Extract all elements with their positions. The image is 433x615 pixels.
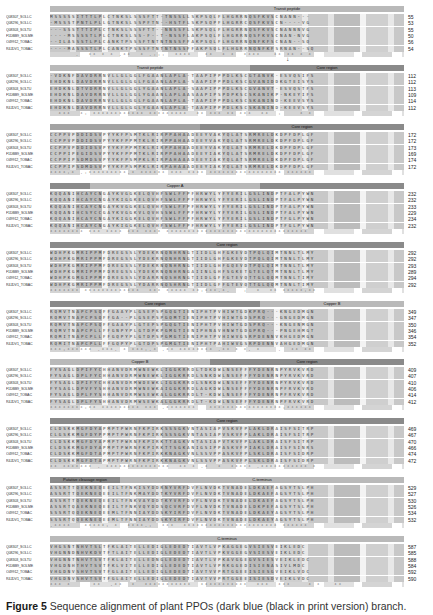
consensus-line: ******** *** **** *** **** *************… (50, 229, 404, 234)
sequence-name: Q08307_SOLLC (6, 544, 50, 550)
sequence-name: O49912_TOBAC (6, 334, 50, 340)
residue-end-position: 112 (408, 105, 416, 111)
sequence-name: F1DBB9_SOLME (6, 151, 50, 157)
caption-text: Sequence alignment of plant PPOs (dark b… (47, 600, 407, 612)
sequence-name: Q08307_SOLLC (6, 250, 50, 256)
residue-end-position: 173 (408, 145, 416, 151)
residue-end-position: 233 (408, 204, 416, 210)
sequence-name: R4JDV1_TOBAC (6, 341, 50, 347)
alignment-row: O49912_TOBACCLDSKKMGFDTAPMPTPWRNFKPIRKKN… (0, 451, 433, 457)
sequence-name: Q08296_SOLLC (6, 79, 50, 85)
alignment-row: O49912_TOBACCCPPIPSDMDSVPYYKFPSMPKLRIRPA… (0, 157, 433, 163)
sequence-name: R4JDV1_TOBAC (6, 46, 50, 52)
sequence-name: O49912_TOBAC (6, 98, 50, 104)
sequence-name: O49912_TOBAC (6, 451, 50, 457)
sequence-name: O49912_TOBAC (6, 392, 50, 398)
figure-caption: Figure 5 Sequence alignment of plant PPO… (6, 600, 406, 613)
sequence-residues: RQMVTNAPCPLLFFGNPYPLGTDPKPGMGTIENIPHNAVH… (50, 328, 404, 334)
sequence-residues: WDHPKGMRIPPMFDREGSSLYDEKRNQNHRNGAIINLGHF… (50, 269, 404, 275)
sequence-residues: ASSRTQAEKNEQEEILTFNKVQYDDSQCVRFDVFLNVDKT… (50, 504, 404, 510)
alignment-row: O49912_TOBACWDHPKGMGIPPMFDREGSSLYDARRNQS… (0, 275, 433, 281)
residue-end-position: 585 (408, 550, 416, 556)
sequence-residues: EHDKNLDAVDRRNVLLGLGGLFGAANLAPLA-TAAPIPPP… (50, 98, 404, 104)
region-annotation-bar: Core region (50, 242, 404, 248)
alignment-row: Q08303_SOLTUCCPPVPDDIDSVPYYKFPPMTKLRIRPP… (0, 145, 433, 151)
sequence-name: Q08296_SOLLC (6, 20, 50, 26)
alignment-row: F1DBB9_SOLMEASSRTQAEKNEQEEILTFNKVQYDDSQC… (0, 504, 433, 510)
sequence-residues: KQQANIHCSYCCGAYKVGGKVLQVHSSWLFFPFHRWYLYF… (50, 210, 404, 216)
alignment-row: O49912_TOBACKQQANIHCAYCNGAYKIGGKELQVHFSW… (0, 216, 433, 222)
residue-end-position: 294 (408, 275, 416, 281)
caption-label: Figure 5 (6, 600, 47, 612)
sequence-residues: ASSRTTQEKNEQEEILTFNKVAYDDTKYVRFDVFLNVDKT… (50, 498, 404, 504)
alignment-block: Core regionQ08307_SOLLCCLDSKKMGFDYAPMPTP… (0, 418, 433, 474)
residue-end-position: 414 (408, 392, 416, 398)
region-annotation-bar: Core region (50, 124, 404, 130)
sequence-name: O49912_TOBAC (6, 275, 50, 281)
residue-end-position: 587 (408, 544, 416, 550)
region-label (50, 6, 170, 12)
sequence-name: F1DBB9_SOLME (6, 445, 50, 451)
alignment-row: F1DBB9_SOLMEVHGDNHTHVTSVTFKLVITELLEDIGLE… (0, 563, 433, 569)
sequence-name: Q08307_SOLLC (6, 14, 50, 20)
region-annotation-bar: Copper BCore region (50, 359, 404, 365)
alignment-row: F1DBB9_SOLME----MSSSSTLPLCTNKSLSS-F--T-N… (0, 33, 433, 39)
alignment-row: Q08303_SOLTUCLDSKKMGFDYAPMPTPWRNFKPIRKTT… (0, 439, 433, 445)
alignment-row: R4JDV1_TOBACEHDKNLDAVDRRNVLLGLGGLYGAANLA… (0, 105, 433, 111)
sequence-residues: RQMVTNAPCPSQFFGA--PLGSEPSPGQMTIENIPHTPVH… (50, 315, 404, 321)
sequence-residues: FYSAGLDPIFYCHHANVDRMWNEWKLIGGKRRDLTDKDWL… (50, 367, 404, 373)
residue-end-position: 50 (408, 33, 414, 39)
sequence-name: Q08303_SOLTU (6, 263, 50, 269)
sequence-name: Q08307_SOLLC (6, 426, 50, 432)
alignment-row: R4JDV1_TOBACSSSRTQQEKNEQEEMLTFNNIAYDDSKY… (0, 517, 433, 523)
residue-end-position: 172 (408, 164, 416, 170)
residue-end-position: 289 (408, 269, 416, 275)
consensus-line: *** * ** .** * *********** *********** *… (50, 582, 404, 587)
region-label: Core region (250, 65, 404, 71)
sequence-residues: CCPPVPDDIDSVPYYKFPPMTKLRIRPPAHAADEEYVAKY… (50, 145, 404, 151)
residue-end-position: 474 (408, 451, 416, 457)
residue-end-position: 354 (408, 334, 416, 340)
sequence-residues: SSSRTQQEKNEQEEMLTFNNIAYDDSKYIRFDVFLNVDKT… (50, 517, 404, 523)
alignment-row: Q08303_SOLTUWDHPKGMRIPPMFDREGSSLYDEKRNQN… (0, 263, 433, 269)
sequence-name: Q08303_SOLTU (6, 557, 50, 563)
sequence-residues: ----MSSSSTLPLCTNKSLSS-F--T-NSSFLAKPSQLFL… (50, 33, 404, 39)
residue-end-position: 54 (408, 46, 414, 52)
sequence-name: Q08303_SOLTU (6, 204, 50, 210)
sequence-name: Q08296_SOLLC (6, 491, 50, 497)
sequence-name: O49912_TOBAC (6, 39, 50, 45)
alignment-row: F1DBB9_SOLMEKQQANIHCSYCCGAYKVGGKVLQVHSSW… (0, 210, 433, 216)
alignment-row: Q08296_SOLLCVHGNNDNHVKDVTFTLAITELLEDIGLE… (0, 550, 433, 556)
sequence-residues: RQMVTNAPCPSQFFGAAYPLGTEPSPGQGTIENIPHTPVH… (50, 322, 404, 328)
sequence-name: Q08296_SOLLC (6, 256, 50, 262)
alignment-row: Q08303_SOLTUVHGNNTNHVTSVTFKLAITELLEDNGLE… (0, 557, 433, 563)
residue-end-position: 56 (408, 39, 414, 45)
sequence-name: F1DBB9_SOLME (6, 33, 50, 39)
region-label (50, 359, 70, 365)
residue-end-position: 529 (408, 485, 416, 491)
residue-end-position: 55 (408, 27, 414, 33)
sequence-residues: KQQANIHCAYCNGAYKVGGKELQVHFSWLFFPFHRWYLYF… (50, 204, 404, 210)
sequence-residues: CCPPIPSDMDSVPYYKFPSMPKLRIRPAHAAADEEYIAKY… (50, 157, 404, 163)
sequence-residues: RQMITNAPCPLLFFGQPYPLGTDPSPGMGTIENIPHTPVH… (50, 334, 404, 340)
residue-end-position: 109 (408, 92, 416, 98)
residue-end-position: 55 (408, 14, 414, 20)
alignment-row: Q08307_SOLLCCCPPVPDDIDSVPYYKFPSMTKLRIRPP… (0, 132, 433, 138)
sequence-residues: ----MASSSTLPLCANKTPSSSFTNTNTNSSFFAKPSQLF… (50, 46, 404, 52)
consensus-line: ***:****** .***. * ***:.* .** ******** .… (50, 347, 404, 352)
sequence-residues: EHDKNLDAVDRRNVLLGLGGLYGAANLAPLA-TAAPIPPP… (50, 105, 404, 111)
consensus-line: ******* ************* *** ***** **:***.*… (50, 288, 404, 293)
consensus-line: ** ******* . *************** ** * .* * *… (50, 464, 404, 469)
alignment-row: O49912_TOBAC--ILASSSTLPLCANKTPSSSFTNTNTN… (0, 39, 433, 45)
sequence-residues: --ILASSSTLPLCANKTPSSSFTNTNTNSSFFAKPSQLFL… (50, 39, 404, 45)
alignment-row: Q08307_SOLLCRQMVTNAPCPSQFFGAAYPLGSEPSPGQ… (0, 309, 433, 315)
alignment-row: R4JDV1_TOBACCLDSKKMGFDTAPMPTPWRNFKPIRKKN… (0, 458, 433, 464)
residue-end-position: 350 (408, 322, 416, 328)
sequence-residues: VHGDNHTHVTSVTFKLVITELLEDIGLEDEDTIAVTLVPR… (50, 563, 404, 569)
alignment-block: Transit peptideCore regionQ08307_SOLLC-V… (0, 65, 433, 121)
sequence-residues: MSSSSSITTTLPLCTNKSLSSSFTT-TNSSLLSKPSQLFL… (50, 14, 404, 20)
residue-end-position: 592 (408, 569, 416, 575)
residue-end-position: 169 (408, 151, 416, 157)
region-annotation-bar: Copper A (50, 183, 404, 189)
sequence-residues: WDHPKGMRIPPMFDREGSSLYDEKRNQNHRNGTIIDLGHF… (50, 263, 404, 269)
